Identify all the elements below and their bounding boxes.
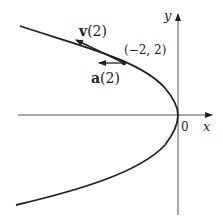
parabola-diagram: y x 0 (−2, 2) v(2) a(2) [0,0,223,221]
point-label: (−2, 2) [124,43,166,57]
velocity-label: v(2) [78,23,107,39]
origin-label: 0 [181,120,189,134]
acceleration-label: a(2) [91,70,120,86]
velocity-vector [76,40,124,63]
y-axis-label: y [163,8,172,23]
x-axis-label: x [203,119,211,134]
